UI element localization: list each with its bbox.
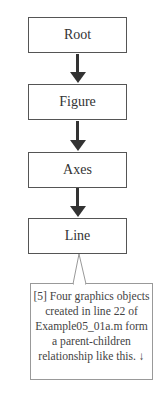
callout-pointer bbox=[0, 0, 161, 396]
